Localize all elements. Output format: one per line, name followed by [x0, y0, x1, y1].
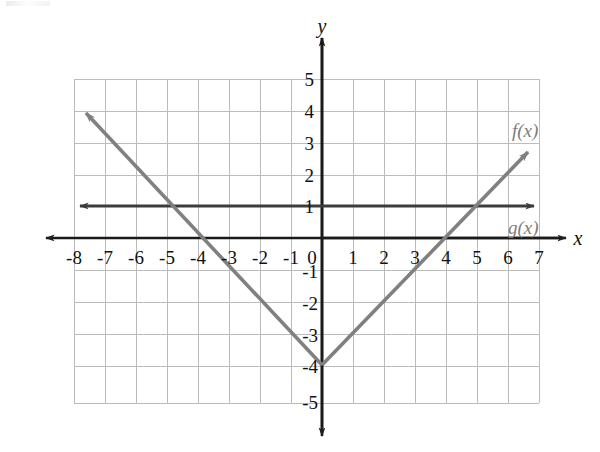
coordinate-plane: g(x) f(x) -8 -7 -6 -5 -4 -3 -2 -1 0 1 2 … [0, 0, 600, 452]
x-tick--5: -5 [159, 247, 175, 268]
x-tick-2: 2 [379, 247, 389, 268]
y-tick--2: -2 [302, 293, 318, 314]
y-tick-labels: 5 4 3 2 1 -1 -2 -3 -4 -5 [302, 69, 318, 413]
graph-figure: g(x) f(x) -8 -7 -6 -5 -4 -3 -2 -1 0 1 2 … [0, 0, 600, 452]
y-tick--4: -4 [302, 356, 318, 377]
x-tick-7: 7 [534, 247, 544, 268]
grid-lines [74, 79, 539, 403]
x-tick-6: 6 [503, 247, 513, 268]
x-tick--7: -7 [97, 247, 113, 268]
x-tick--3: -3 [221, 247, 237, 268]
x-tick--6: -6 [128, 247, 144, 268]
y-axis-label: y [316, 15, 327, 38]
x-tick-4: 4 [441, 247, 451, 268]
x-axis-label: x [573, 227, 583, 249]
x-tick-1: 1 [348, 247, 358, 268]
y-tick-5: 5 [305, 69, 315, 90]
gx-label: g(x) [508, 217, 539, 239]
y-tick-2: 2 [305, 165, 315, 186]
y-tick-3: 3 [305, 133, 315, 154]
x-tick-5: 5 [472, 247, 482, 268]
y-tick-4: 4 [305, 101, 315, 122]
fx-label: f(x) [512, 120, 538, 142]
x-tick-3: 3 [410, 247, 420, 268]
y-tick-1: 1 [305, 196, 315, 217]
y-tick--3: -3 [302, 325, 318, 346]
x-tick--4: -4 [190, 247, 206, 268]
y-tick--1: -1 [302, 261, 318, 282]
y-tick--5: -5 [302, 392, 318, 413]
x-tick--1: -1 [283, 247, 299, 268]
x-tick--2: -2 [252, 247, 268, 268]
x-tick--8: -8 [66, 247, 82, 268]
